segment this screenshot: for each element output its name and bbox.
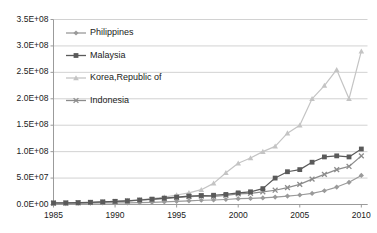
data-point-square — [113, 199, 118, 204]
data-point-diamond — [322, 188, 327, 193]
data-point-diamond — [273, 195, 278, 200]
y-axis-tick-label: 2.0E+08 — [17, 93, 49, 103]
data-point-x — [359, 153, 364, 158]
data-point-diamond — [334, 184, 339, 189]
y-axis-tick-label: 3.0E+08 — [17, 40, 49, 50]
series-line — [54, 175, 362, 203]
x-axis-tick-label: 2000 — [218, 210, 258, 220]
legend-label: Malaysia — [90, 50, 126, 60]
series-line — [54, 149, 362, 203]
x-axis-tick-label: 2005 — [280, 210, 320, 220]
chart-canvas — [0, 0, 377, 233]
data-point-square — [150, 197, 155, 202]
data-point-square — [100, 199, 105, 204]
legend-label: Philippines — [90, 27, 134, 37]
data-point-square — [88, 200, 93, 205]
data-point-square — [74, 53, 79, 58]
data-point-x — [322, 172, 327, 177]
legend-entry-korea-republic-of — [66, 75, 86, 80]
data-point-square — [260, 186, 265, 191]
legend-label: Indonesia — [90, 95, 129, 105]
data-point-square — [211, 193, 216, 198]
data-point-square — [273, 176, 278, 181]
data-point-square — [297, 167, 302, 172]
data-point-square — [236, 190, 241, 195]
data-point-diamond — [309, 191, 314, 196]
data-point-diamond — [236, 196, 241, 201]
data-point-square — [347, 155, 352, 160]
data-point-triangle — [334, 67, 340, 72]
series-indonesia — [51, 153, 364, 205]
data-point-square — [137, 198, 142, 203]
data-point-triangle — [285, 130, 291, 135]
data-point-diamond — [285, 193, 290, 198]
data-point-square — [310, 160, 315, 165]
x-axis-tick-label: 1985 — [34, 210, 74, 220]
x-axis-tick-label: 2010 — [341, 210, 377, 220]
data-point-square — [125, 198, 130, 203]
data-point-diamond — [297, 192, 302, 197]
legend-entry-malaysia — [66, 53, 86, 58]
data-point-square — [334, 153, 339, 158]
data-point-diamond — [260, 195, 265, 200]
data-point-triangle — [248, 155, 254, 160]
data-point-square — [359, 147, 364, 152]
x-axis-tick-label: 1995 — [157, 210, 197, 220]
y-axis-tick-label: 3.5E+08 — [17, 14, 49, 24]
data-point-diamond — [73, 30, 78, 35]
data-point-square — [199, 193, 204, 198]
data-point-square — [162, 196, 167, 201]
y-axis-tick-label: 0.0E+00 — [17, 199, 49, 209]
data-point-square — [285, 169, 290, 174]
data-point-diamond — [248, 196, 253, 201]
y-axis-tick-label: 1.0E+08 — [17, 146, 49, 156]
y-axis-tick-label: 5.0E+07 — [17, 172, 49, 182]
series-line — [54, 156, 362, 203]
data-point-diamond — [346, 180, 351, 185]
data-point-square — [51, 201, 56, 206]
x-axis-tick-label: 1990 — [95, 210, 135, 220]
data-point-triangle — [359, 48, 365, 53]
data-point-square — [223, 192, 228, 197]
legend-label: Korea,Republic of — [90, 72, 162, 82]
data-point-square — [63, 200, 68, 205]
y-axis-tick-label: 1.5E+08 — [17, 119, 49, 129]
y-axis-tick-label: 2.5E+08 — [17, 66, 49, 76]
data-point-diamond — [359, 173, 364, 178]
data-point-square — [187, 194, 192, 199]
data-point-square — [76, 200, 81, 205]
line-chart: 0.0E+005.0E+071.0E+081.5E+082.0E+082.5E+… — [0, 0, 377, 233]
data-point-square — [174, 195, 179, 200]
legend-entry-philippines — [66, 30, 86, 35]
data-point-x — [310, 177, 315, 182]
data-point-triangle — [198, 187, 204, 192]
data-point-square — [248, 189, 253, 194]
data-point-square — [322, 155, 327, 160]
